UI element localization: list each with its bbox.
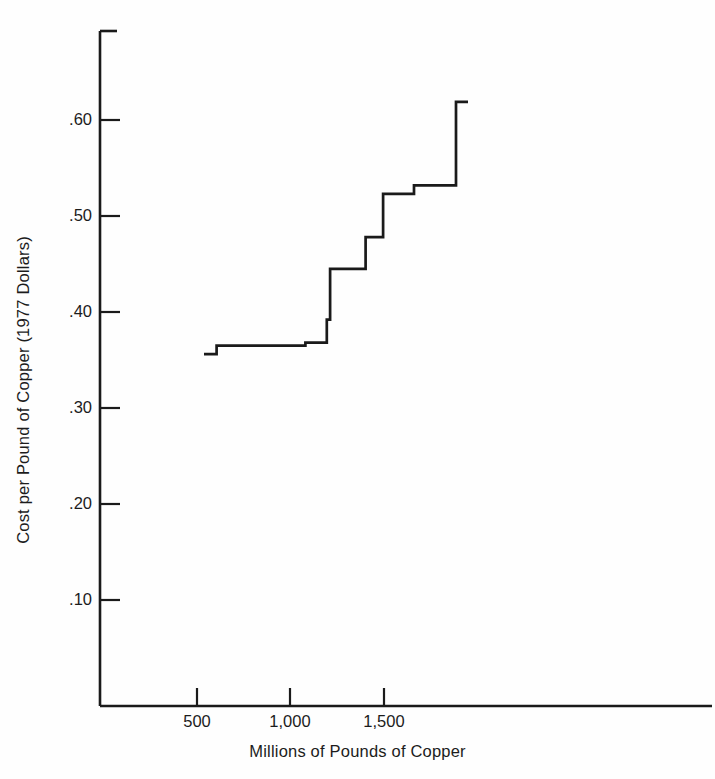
x-tick-label-1000: 1,000 xyxy=(245,712,335,731)
step-curve-copper-supply xyxy=(204,102,468,354)
supply-cost-step-chart xyxy=(0,0,715,779)
x-axis-title: Millions of Pounds of Copper xyxy=(0,742,715,761)
chart-figure: .60 .50 .40 .30 .20 .10 500 1,000 1,500 … xyxy=(0,0,715,779)
x-tick-label-500: 500 xyxy=(152,712,242,731)
chart-axes xyxy=(100,31,712,706)
y-axis-title: Cost per Pound of Copper (1977 Dollars) xyxy=(14,236,33,544)
y-axis-title-wrapper: Cost per Pound of Copper (1977 Dollars) xyxy=(0,0,46,779)
x-axis-ticks xyxy=(197,688,384,706)
y-axis-ticks xyxy=(100,120,120,600)
x-tick-label-1500: 1,500 xyxy=(339,712,429,731)
chart-data-series xyxy=(204,102,468,354)
